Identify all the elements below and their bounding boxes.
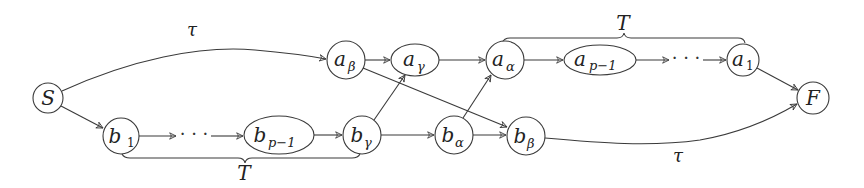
node-bp1: b p−1 xyxy=(244,116,314,154)
node-balpha: b α xyxy=(435,116,473,154)
edge-bbeta-f xyxy=(545,104,797,144)
label-top-tau: τ xyxy=(187,19,198,40)
label-bottom-tau: τ xyxy=(673,145,684,166)
graph-diagram: τ τ T T · · · · · · S b 1 b p−1 b γ b α … xyxy=(0,0,864,188)
node-aalpha-sub: α xyxy=(506,59,515,74)
node-agamma-label: a xyxy=(403,47,415,71)
edge-balpha-aalpha xyxy=(463,75,491,118)
node-bbeta-sub: β xyxy=(526,136,535,151)
node-abeta-sub: β xyxy=(347,59,356,74)
node-aalpha-label: a xyxy=(492,47,504,71)
node-f: F xyxy=(797,82,829,114)
node-a1-sub: 1 xyxy=(746,59,754,73)
node-aalpha: a α xyxy=(486,41,524,79)
node-b1-label: b xyxy=(109,124,122,148)
node-f-label: F xyxy=(805,86,821,110)
node-abeta-label: a xyxy=(334,47,346,71)
node-abeta: a β xyxy=(327,41,365,79)
node-bgamma: b γ xyxy=(343,116,381,154)
node-b1-sub: 1 xyxy=(127,136,135,150)
ellipsis-bottom: · · · xyxy=(180,123,209,144)
edge-s-b1 xyxy=(61,106,103,128)
edge-bgamma-agamma xyxy=(374,75,405,120)
node-balpha-label: b xyxy=(442,123,455,147)
ellipsis-top: · · · xyxy=(672,47,701,68)
node-ap1-label: a xyxy=(574,47,586,71)
node-bbeta-label: b xyxy=(514,124,527,148)
node-s-label: S xyxy=(41,86,55,110)
label-top-brace-t: T xyxy=(616,11,631,35)
node-bp1-sub: p−1 xyxy=(268,135,296,150)
label-bottom-brace-t: T xyxy=(237,161,252,185)
node-ap1: a p−1 xyxy=(564,45,636,75)
node-bbeta: b β xyxy=(507,117,545,155)
node-bp1-label: b xyxy=(254,123,267,147)
node-agamma-sub: γ xyxy=(417,59,425,74)
node-ap1-sub: p−1 xyxy=(589,58,617,73)
edge-a1-f xyxy=(757,68,798,90)
node-a1: a 1 xyxy=(727,44,759,76)
node-bgamma-label: b xyxy=(351,123,364,147)
node-bgamma-sub: γ xyxy=(364,135,372,150)
node-balpha-sub: α xyxy=(455,135,464,150)
node-agamma: a γ xyxy=(391,44,439,76)
edge-s-abeta xyxy=(62,49,326,91)
edge-abeta-bbeta xyxy=(363,68,507,127)
node-b1: b 1 xyxy=(103,118,139,154)
node-s: S xyxy=(33,83,63,113)
node-a1-label: a xyxy=(732,47,744,71)
